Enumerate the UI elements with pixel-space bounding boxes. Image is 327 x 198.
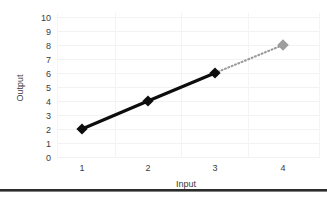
y-tick-label: 4: [46, 97, 51, 107]
y-tick-label: 5: [46, 83, 51, 93]
y-tick-label: 3: [46, 111, 51, 121]
y-tick-label: 6: [46, 69, 51, 79]
bottom-divider-rule: [0, 189, 327, 192]
y-tick-label: 9: [46, 27, 51, 37]
y-tick-label: 2: [46, 125, 51, 135]
x-tick-label: 4: [280, 163, 285, 173]
line-chart-canvas: 10 9 8 7 6 5 4 3 2 1 0 1 2 3 4 Output In…: [0, 0, 327, 198]
x-tick-label: 3: [212, 163, 217, 173]
y-tick-label: 7: [46, 55, 51, 65]
y-tick-label: 10: [41, 13, 51, 23]
x-tick-label: 2: [145, 163, 150, 173]
x-tick-label: 1: [79, 163, 84, 173]
x-axis-title: Input: [176, 179, 197, 189]
chart-figure: 10 9 8 7 6 5 4 3 2 1 0 1 2 3 4 Output In…: [0, 0, 327, 198]
y-axis-title: Output: [15, 74, 25, 102]
y-tick-label: 8: [46, 41, 51, 51]
y-tick-label: 1: [46, 139, 51, 149]
y-tick-label: 0: [46, 153, 51, 163]
